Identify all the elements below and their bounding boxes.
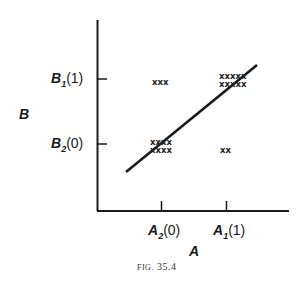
figure-caption: FIG. 35.4 [137, 261, 176, 272]
x-tick-label-a1: A1(1) [213, 222, 245, 241]
x-tick-label-a2: A2(0) [148, 222, 180, 241]
x-axis-label: A [189, 243, 199, 259]
y-tick-label-b2: B2(0) [51, 135, 83, 154]
marks-a2-b1: xxx [152, 78, 168, 86]
y-axis-label: B [19, 106, 29, 122]
y-tick-label-b1: B1(1) [51, 70, 83, 89]
marks-a2-b2-row2: xxxx [150, 146, 172, 154]
marks-a1-b2: xx [220, 146, 231, 154]
marks-a1-b1-row2: xxxxx [219, 80, 246, 88]
